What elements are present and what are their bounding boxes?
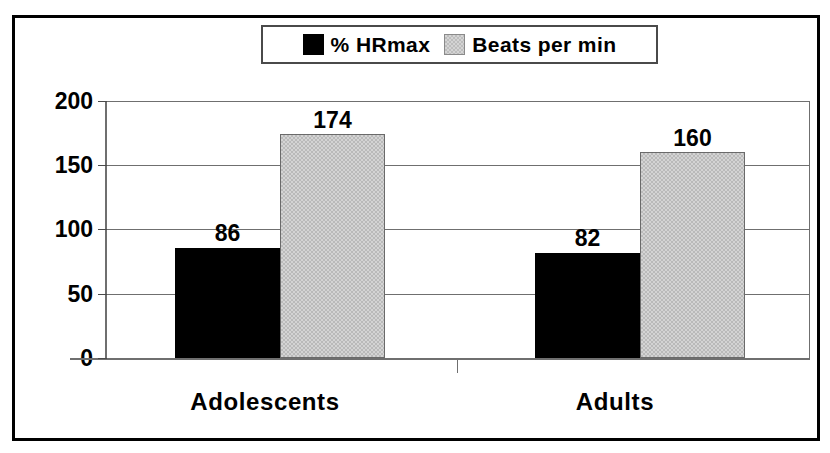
x-category-label-adolescents: Adolescents — [155, 390, 375, 414]
chart-legend: % HRmax Beats per min — [261, 25, 658, 64]
y-tick-label-50: 50 — [23, 283, 93, 306]
legend-label-hrmax: % HRmax — [331, 34, 431, 55]
bar-value-label-adolescents-bpm: 174 — [280, 109, 385, 132]
x-tick-mark-midpoint — [457, 360, 458, 373]
black-swatch-icon — [303, 34, 324, 55]
y-tick-mark-150 — [98, 165, 107, 166]
y-tick-mark-200 — [98, 101, 107, 102]
x-category-label-adults: Adults — [525, 390, 705, 414]
chart-plot-wrapper: 200 150 100 50 0 86 174 82 160 Adolescen… — [15, 18, 823, 444]
legend-entry-bpm[interactable]: Beats per min — [444, 34, 616, 55]
bar-value-label-adults-bpm: 160 — [640, 127, 745, 150]
y-tick-mark-50 — [98, 294, 107, 295]
bar-value-label-adolescents-hrmax: 86 — [175, 222, 280, 245]
bar-adolescents-hrmax[interactable] — [175, 248, 280, 358]
chart-figure-frame: 200 150 100 50 0 86 174 82 160 Adolescen… — [12, 15, 820, 441]
figure-caption-strip — [0, 444, 830, 453]
bar-adults-hrmax[interactable] — [535, 253, 640, 358]
y-tick-mark-0 — [98, 358, 107, 359]
x-axis-line — [70, 358, 810, 360]
legend-entry-hrmax[interactable]: % HRmax — [303, 34, 431, 55]
legend-label-bpm: Beats per min — [472, 34, 616, 55]
y-tick-label-200: 200 — [23, 90, 93, 113]
bar-value-label-adults-hrmax: 82 — [535, 227, 640, 250]
bar-adolescents-bpm[interactable] — [280, 134, 385, 358]
y-tick-label-150: 150 — [23, 154, 93, 177]
y-tick-label-100: 100 — [23, 218, 93, 241]
y-tick-mark-100 — [98, 229, 107, 230]
gridline-200 — [105, 101, 810, 102]
gray-swatch-icon — [444, 34, 465, 55]
plot-right-edge — [809, 101, 810, 360]
bar-adults-bpm[interactable] — [640, 152, 745, 358]
y-axis-line — [105, 101, 107, 360]
